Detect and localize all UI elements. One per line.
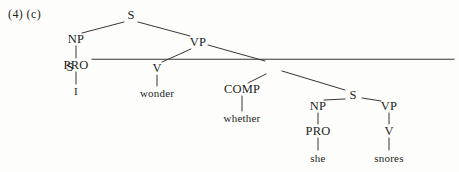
tree-terminal-term-wonder: wonder (140, 88, 174, 99)
tree-node-np-2: NP (310, 100, 326, 113)
tree-node-label: whether (224, 112, 261, 124)
tree-node-label: S (127, 8, 134, 22)
tree-node-label: wonder (140, 87, 174, 99)
tree-node-comp-1: COMP (224, 83, 260, 96)
tree-terminal-term-i: I (74, 86, 78, 97)
tree-node-label: S (67, 60, 74, 74)
tree-node-vp-1: VP (190, 36, 206, 49)
tree-node-s-root: S (127, 9, 134, 22)
tree-node-s-embed: S (349, 89, 356, 102)
tree-node-label: NP (310, 99, 326, 113)
tree-node-sbar: S (67, 61, 459, 74)
tree-node-label: VP (381, 99, 397, 113)
s-bar-overline-icon (91, 59, 454, 60)
tree-node-label: snores (374, 152, 403, 164)
tree-node-v-2: V (384, 125, 393, 138)
tree-node-label: NP (68, 32, 84, 46)
tree-node-label: I (74, 85, 78, 97)
tree-node-pro-2: PRO (306, 125, 331, 138)
tree-terminal-term-whether: whether (224, 113, 261, 124)
tree-node-vp-2: VP (381, 100, 397, 113)
tree-node-label: VP (190, 35, 206, 49)
tree-node-label: S (349, 88, 356, 102)
tree-node-label: she (310, 152, 325, 164)
tree-node-label: V (384, 124, 393, 138)
tree-terminal-term-she: she (310, 153, 325, 164)
tree-terminal-term-snores: snores (374, 153, 403, 164)
tree-node-np-1: NP (68, 33, 84, 46)
tree-node-label: COMP (224, 82, 260, 96)
tree-node-label: PRO (306, 124, 331, 138)
